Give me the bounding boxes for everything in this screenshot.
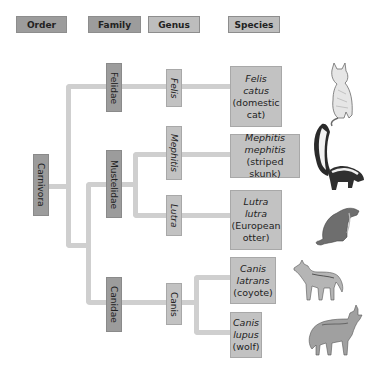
species-epithet: lupus (231, 329, 261, 341)
header-genus: Genus (148, 16, 200, 33)
species-epithet: lutra (231, 208, 281, 220)
genus-felis: Felis (166, 69, 182, 107)
genus-canis: Canis (166, 283, 182, 325)
species-common-name: (wolf) (231, 341, 261, 353)
species-mephitis-mephitis: Mephitis mephitis (striped skunk) (230, 134, 300, 178)
species-genus-name: Canis (231, 317, 261, 329)
order-carnivora: Carnivora (33, 154, 49, 216)
species-lutra-lutra: Lutra lutra (European otter) (230, 190, 282, 250)
order-label: Carnivora (36, 163, 46, 207)
header-species: Species (228, 16, 280, 33)
species-common-name: (domestic (231, 97, 281, 109)
species-common-name: (striped skunk) (231, 156, 299, 180)
species-common-name: (coyote) (231, 287, 275, 299)
genus-mephitis: Mephitis (166, 126, 182, 180)
species-common-name: (European (231, 220, 281, 232)
family-label: Mustelidae (109, 160, 119, 209)
species-felis-catus: Felis catus (domestic cat) (230, 66, 282, 127)
species-genus-name: Canis (231, 263, 275, 275)
genus-label: Felis (169, 78, 179, 98)
species-genus-name: Felis (231, 73, 281, 85)
species-canis-lupus: Canis lupus (wolf) (230, 312, 262, 358)
family-felidae: Felidae (106, 63, 122, 112)
wolf-illustration-icon (306, 305, 364, 359)
species-epithet: catus (231, 85, 281, 97)
cat-illustration-icon (318, 60, 358, 128)
otter-illustration-icon (313, 203, 363, 247)
family-label: Felidae (109, 72, 119, 104)
species-genus-name: Mephitis (231, 132, 299, 144)
skunk-illustration-icon (308, 120, 368, 194)
genus-label: Mephitis (169, 134, 179, 172)
species-epithet: latrans (231, 275, 275, 287)
header-order: Order (16, 16, 67, 33)
species-genus-name: Lutra (231, 196, 281, 208)
coyote-illustration-icon (290, 258, 346, 302)
family-mustelidae: Mustelidae (106, 150, 122, 218)
species-epithet: mephitis (231, 144, 299, 156)
genus-label: Lutra (169, 204, 179, 227)
species-canis-latrans: Canis latrans (coyote) (230, 257, 276, 304)
family-canidae: Canidae (106, 277, 122, 332)
family-label: Canidae (109, 286, 119, 323)
genus-lutra: Lutra (166, 195, 182, 236)
species-common-name-cont: otter) (231, 232, 281, 244)
header-family: Family (88, 16, 141, 33)
genus-label: Canis (169, 292, 179, 317)
species-common-name-cont: cat) (231, 109, 281, 121)
